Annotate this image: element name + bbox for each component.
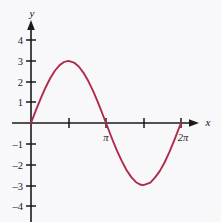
y-tick-label-4: 4 [18,35,24,46]
y-tick-label-3: 3 [18,56,23,67]
x-tick-label-pi: π [103,132,109,143]
x-axis-label: x [205,116,211,128]
y-tick-label-1: 1 [18,97,23,108]
plot-canvas: 4 3 2 1 –1 –2 –3 –4 π 2π y x [0,0,221,222]
y-tick-label-neg4: –4 [12,201,24,212]
y-axis-label: y [29,7,35,19]
plot-background [0,0,221,222]
y-tick-label-neg1: –1 [12,139,24,150]
sine-curve-figure: 4 3 2 1 –1 –2 –3 –4 π 2π y x [0,0,221,222]
y-tick-label-2: 2 [18,77,23,88]
y-tick-label-neg3: –3 [12,181,24,192]
x-tick-label-two-pi: 2π [178,132,189,143]
y-tick-label-neg2: –2 [12,160,24,171]
